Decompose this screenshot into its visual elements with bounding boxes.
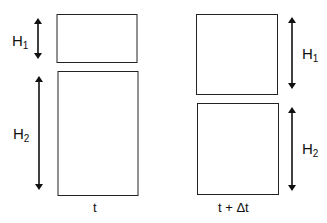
diagram-canvas [0,0,327,223]
right-caption: t + Δt [218,201,249,214]
right-bottom-box [198,104,279,195]
right-h1-label: H1 [302,46,318,64]
right-h2-label: H2 [302,141,318,159]
right-top-box [197,15,278,95]
left-caption: t [93,201,97,214]
left-h2-label: H2 [13,126,29,144]
left-h1-label: H1 [12,33,28,51]
left-top-box [57,15,137,63]
left-bottom-box [58,72,138,196]
